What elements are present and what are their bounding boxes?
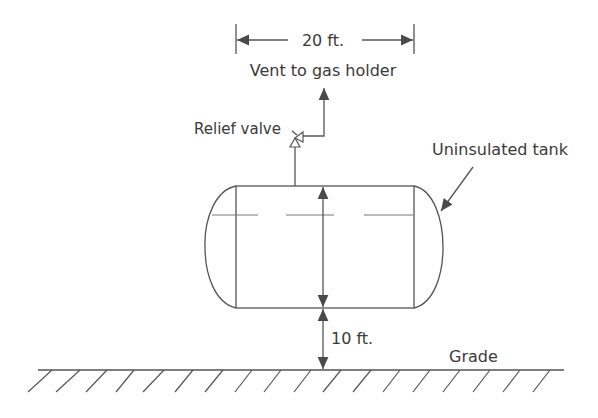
grade-label: Grade [449, 347, 498, 366]
grade-hatching [28, 370, 550, 392]
tank-head-left [205, 186, 236, 308]
width-dimension-label: 20 ft. [302, 31, 344, 50]
tank-head-right [414, 186, 443, 308]
vent-label: Vent to gas holder [250, 61, 397, 80]
elevation-dimension-label: 10 ft. [331, 329, 373, 348]
relief-valve-label: Relief valve [194, 120, 281, 138]
vent-line [302, 88, 324, 136]
grade-line [28, 370, 564, 392]
tank-shell [236, 186, 414, 308]
tank-label: Uninsulated tank [432, 140, 569, 159]
relief-valve-icon [290, 131, 303, 147]
tank [205, 186, 443, 308]
tank-leader-arrow [441, 167, 473, 211]
tank-relief-diagram: 20 ft. Vent to gas holder Relief valve U… [0, 0, 598, 418]
